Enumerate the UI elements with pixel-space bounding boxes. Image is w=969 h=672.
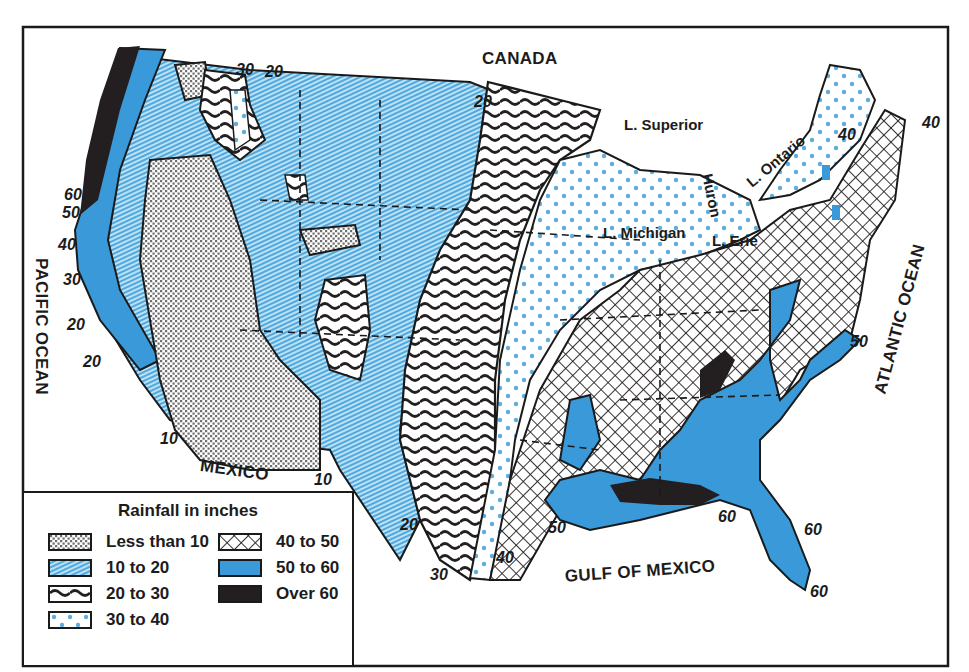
legend-label: 30 to 40 (106, 610, 169, 630)
label-gulf-of-mexico: GULF OF MEXICO (564, 556, 716, 585)
isohyet-label: 10 (160, 430, 178, 447)
isohyet-label: 20 (66, 316, 85, 333)
isohyet-label: 60 (718, 508, 736, 525)
isohyet-label: 40 (921, 114, 940, 131)
legend: Rainfall in inches Less than 10 10 to 20… (24, 491, 354, 665)
swatch-solid-blue-icon (218, 559, 262, 577)
isohyet-label: 20 (473, 93, 492, 110)
swatch-wave-icon (48, 585, 92, 603)
isohyet-label: 20 (82, 353, 101, 370)
legend-label: 40 to 50 (276, 532, 339, 552)
swatch-solid-dark-icon (218, 585, 262, 603)
legend-item-20-to-30: 20 to 30 (48, 583, 169, 605)
swatch-hatch-icon (48, 559, 92, 577)
legend-label: 20 to 30 (106, 584, 169, 604)
isohyet-label: 60 (64, 186, 82, 203)
label-lake-michigan: L. Michigan (603, 224, 686, 241)
legend-item-30-to-40: 30 to 40 (48, 609, 169, 631)
isohyet-label: 40 (495, 549, 514, 566)
isohyet-label: 10 (314, 471, 332, 488)
swatch-dots-icon (48, 611, 92, 629)
legend-item-10-to-20: 10 to 20 (48, 557, 169, 579)
isohyet-label: 50 (850, 333, 868, 350)
label-pacific-ocean: PACIFIC OCEAN (32, 258, 51, 395)
isohyet-label: 50 (62, 204, 80, 221)
label-lake-superior: L. Superior (624, 116, 703, 133)
legend-label: Over 60 (276, 584, 338, 604)
isohyet-label: 20 (399, 516, 418, 533)
label-canada: CANADA (482, 49, 557, 68)
legend-label: 10 to 20 (106, 558, 169, 578)
swatch-crosshatch-icon (218, 533, 262, 551)
swatch-stipple-icon (48, 533, 92, 551)
isohyet-label: 30 (430, 566, 448, 583)
isohyet-label: 40 (837, 126, 856, 143)
legend-item-50-to-60: 50 to 60 (218, 557, 339, 579)
label-atlantic-ocean: ATLANTIC OCEAN (871, 242, 929, 396)
isohyet-label: 20 (264, 63, 283, 80)
legend-label: 50 to 60 (276, 558, 339, 578)
legend-item-less-than-10: Less than 10 (48, 531, 209, 553)
isohyet-label: 30 (236, 61, 254, 78)
isohyet-label: 60 (804, 521, 822, 538)
legend-item-40-to-50: 40 to 50 (218, 531, 339, 553)
isohyet-label: 60 (810, 583, 828, 600)
isohyet-label: 30 (63, 271, 81, 288)
label-lake-erie: L. Erie (712, 232, 758, 249)
legend-title: Rainfall in inches (24, 501, 352, 521)
isohyet-label: 50 (548, 519, 566, 536)
legend-item-over-60: Over 60 (218, 583, 338, 605)
legend-label: Less than 10 (106, 532, 209, 552)
isohyet-label: 40 (57, 236, 76, 253)
